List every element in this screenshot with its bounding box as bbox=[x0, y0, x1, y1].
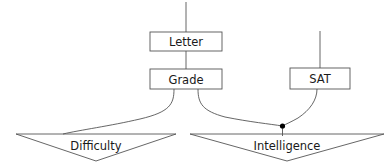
node-intelligence[interactable]: Intelligence bbox=[190, 134, 384, 161]
node-sat[interactable]: SAT bbox=[290, 68, 350, 89]
diagram-svg: Difficulty Intelligence Letter Grade bbox=[0, 0, 389, 165]
edge-grade-to-junction bbox=[198, 89, 283, 126]
node-difficulty[interactable]: Difficulty bbox=[16, 134, 176, 161]
node-letter[interactable]: Letter bbox=[150, 32, 222, 51]
node-grade[interactable]: Grade bbox=[150, 69, 222, 89]
edge-sat-to-junction bbox=[283, 89, 318, 126]
chevron-node-layer: Difficulty Intelligence bbox=[16, 134, 384, 161]
letter-label: Letter bbox=[169, 35, 203, 49]
sat-label: SAT bbox=[309, 72, 331, 86]
diagram-canvas: Difficulty Intelligence Letter Grade bbox=[0, 0, 389, 165]
intelligence-junction-dot bbox=[280, 123, 285, 128]
difficulty-label: Difficulty bbox=[70, 139, 121, 153]
intelligence-label: Intelligence bbox=[254, 139, 321, 153]
grade-label: Grade bbox=[168, 73, 203, 87]
edge-grade-to-difficulty bbox=[63, 89, 174, 134]
